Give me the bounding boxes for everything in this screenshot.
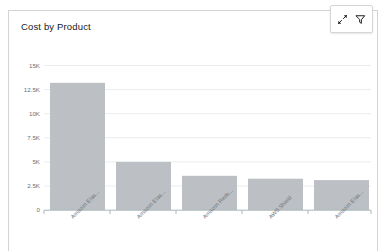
- cost-by-product-widget: Cost by Product: [8, 10, 378, 251]
- bar-chart: 15K 12.5K 10K 7.5K 5K 2.5K 0 Amazon Elas…: [9, 11, 379, 251]
- y-tick-label: 15K: [29, 62, 41, 69]
- y-tick-label: 10K: [29, 110, 41, 117]
- bar-item[interactable]: [248, 179, 303, 210]
- y-tick-label: 12.5K: [24, 86, 41, 93]
- y-axis-tick-labels: 15K 12.5K 10K 7.5K 5K 2.5K 0: [24, 62, 41, 214]
- y-tick-label: 0: [37, 206, 41, 213]
- y-tick-label: 5K: [32, 158, 40, 165]
- bar-item[interactable]: [116, 162, 171, 210]
- y-tick-label: 2.5K: [27, 182, 41, 189]
- y-tick-label: 7.5K: [27, 134, 41, 141]
- chart-plot-area: 15K 12.5K 10K 7.5K 5K 2.5K 0 Amazon Elas…: [9, 11, 379, 251]
